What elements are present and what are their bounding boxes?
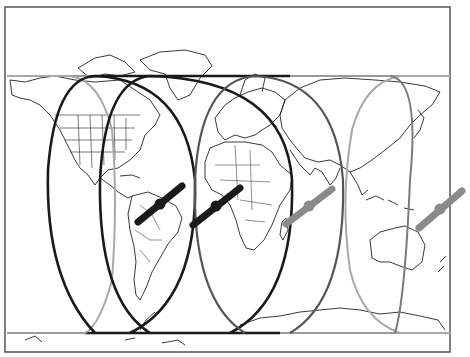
- orbit-map-figure: [0, 0, 470, 357]
- map-canvas: [0, 0, 470, 357]
